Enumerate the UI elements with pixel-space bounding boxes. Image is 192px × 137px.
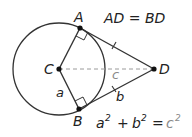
label-b: B: [73, 113, 83, 129]
label-a: A: [73, 9, 84, 25]
label-seg-c: c: [112, 67, 119, 82]
point-d: [151, 66, 156, 71]
svg-text:c: c: [166, 115, 174, 131]
segment-ad: [80, 28, 154, 69]
label-seg-a: a: [56, 85, 64, 100]
svg-text:=: =: [152, 115, 164, 131]
point-c: [56, 66, 61, 71]
equation-pythagorean: a 2 + b 2 = c 2: [96, 113, 181, 131]
point-b: [76, 106, 81, 111]
segment-ca: [59, 28, 80, 69]
point-a: [77, 25, 82, 30]
svg-text:a: a: [96, 115, 105, 131]
svg-text:2: 2: [175, 113, 181, 123]
label-c: C: [44, 61, 54, 77]
label-d: D: [159, 61, 170, 77]
equation-equal-tangents: AD = BD: [103, 10, 166, 26]
svg-text:+: +: [117, 115, 129, 131]
svg-text:b: b: [132, 115, 141, 131]
label-seg-b: b: [116, 89, 124, 104]
svg-text:2: 2: [105, 113, 111, 123]
svg-text:2: 2: [141, 113, 147, 123]
tangent-diagram: A B C D a b c AD = BD a 2 + b 2 = c 2: [0, 0, 192, 137]
